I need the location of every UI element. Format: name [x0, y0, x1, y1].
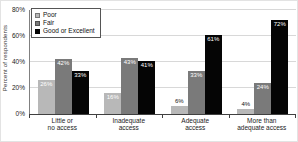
bar-group: 4%24%72% — [230, 10, 297, 114]
legend-label: Good or Excellent — [43, 27, 95, 35]
bar-good-or-excellent: 41% — [138, 61, 155, 114]
legend-item: Poor — [35, 11, 95, 19]
legend-label: Poor — [43, 11, 57, 19]
legend-swatch-icon — [35, 29, 40, 34]
category-label: Little orno access — [29, 117, 96, 131]
category-label: More thanadequate access — [229, 117, 296, 131]
bar-fair: 24% — [254, 83, 271, 114]
bar-value-label: 4% — [237, 101, 254, 108]
category-label-line: Adequate — [162, 117, 229, 124]
bar-value-label: 61% — [205, 36, 222, 43]
y-tick-label: 40% — [1, 59, 25, 65]
bar-good-or-excellent: 72% — [271, 20, 288, 114]
bar-fair: 33% — [188, 71, 205, 114]
y-tick-label: 0% — [1, 111, 25, 117]
bar-good-or-excellent: 33% — [72, 71, 89, 114]
bar-value-label: 43% — [121, 59, 138, 66]
legend-swatch-icon — [35, 13, 40, 18]
bar-value-label: 26% — [38, 81, 55, 88]
legend: PoorFairGood or Excellent — [31, 8, 101, 38]
bar-value-label: 33% — [188, 72, 205, 79]
bar-poor: 4% — [237, 109, 254, 114]
bar-value-label: 24% — [254, 84, 271, 91]
category-label-line: access — [162, 124, 229, 131]
bar-chart: Percent of respondents 26%42%33%16%43%41… — [0, 0, 298, 142]
category-label: Adequateaccess — [162, 117, 229, 131]
category-label: Inadequateaccess — [96, 117, 163, 131]
bar-value-label: 42% — [55, 60, 72, 67]
bar-group: 16%43%41% — [97, 10, 164, 114]
legend-item: Good or Excellent — [35, 27, 95, 35]
bar-value-label: 16% — [104, 94, 121, 101]
category-label-line: no access — [29, 124, 96, 131]
category-label-line: Inadequate — [96, 117, 163, 124]
category-label-line: Little or — [29, 117, 96, 124]
x-tick-mark — [295, 114, 296, 118]
bar-group: 6%33%61% — [163, 10, 230, 114]
category-label-line: adequate access — [229, 124, 296, 131]
bar-fair: 42% — [55, 59, 72, 114]
bar-value-label: 72% — [271, 21, 288, 28]
category-label-line: access — [96, 124, 163, 131]
bar-poor: 26% — [38, 80, 55, 114]
y-tick-label: 60% — [1, 33, 25, 39]
bar-value-label: 33% — [72, 72, 89, 79]
y-tick-label: 80% — [1, 7, 25, 13]
legend-item: Fair — [35, 19, 95, 27]
bar-value-label: 6% — [171, 98, 188, 105]
bar-poor: 6% — [171, 106, 188, 114]
legend-swatch-icon — [35, 21, 40, 26]
category-label-line: More than — [229, 117, 296, 124]
bar-fair: 43% — [121, 58, 138, 114]
y-tick-label: 20% — [1, 85, 25, 91]
legend-label: Fair — [43, 19, 54, 27]
bar-good-or-excellent: 61% — [205, 35, 222, 114]
bar-value-label: 41% — [138, 62, 155, 69]
category-axis-labels: Little orno accessInadequateaccessAdequa… — [29, 117, 295, 131]
bar-poor: 16% — [104, 93, 121, 114]
